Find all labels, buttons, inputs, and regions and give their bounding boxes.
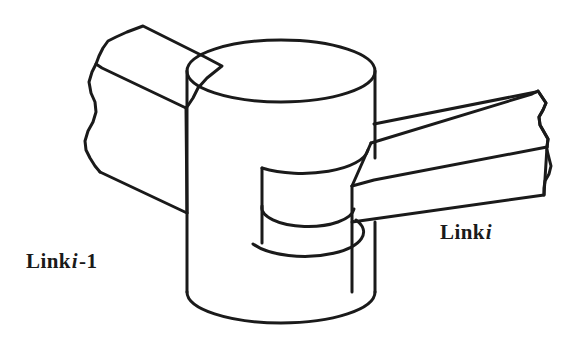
- inner-cylinder-bottom-arc: [262, 206, 354, 227]
- label-link-current-prefix: Link: [440, 220, 485, 244]
- figure-canvas: Linki-1 Linki: [0, 0, 573, 347]
- slot-upper-lip-arc: [262, 150, 368, 173]
- link-cur-upper-sliver: [374, 92, 536, 124]
- link-cur-front-face: [352, 147, 547, 222]
- label-link-current: Linki: [440, 222, 493, 243]
- label-link-previous-suffix: -1: [79, 249, 97, 273]
- link-prev-break-line: [85, 64, 100, 172]
- label-link-previous-prefix: Link: [26, 249, 71, 273]
- link-prev-top-face: [96, 26, 222, 108]
- revolute-joint-drawing: [0, 0, 573, 347]
- label-link-previous: Linki-1: [26, 251, 97, 272]
- link-cur-break-line-upper: [538, 91, 548, 147]
- link-cur-top-face: [352, 91, 548, 186]
- cylinder-bottom-arc: [187, 292, 375, 323]
- label-link-previous-symbol: i: [71, 249, 79, 273]
- label-link-current-symbol: i: [485, 220, 493, 244]
- link-prev-front-face-lower: [100, 172, 187, 213]
